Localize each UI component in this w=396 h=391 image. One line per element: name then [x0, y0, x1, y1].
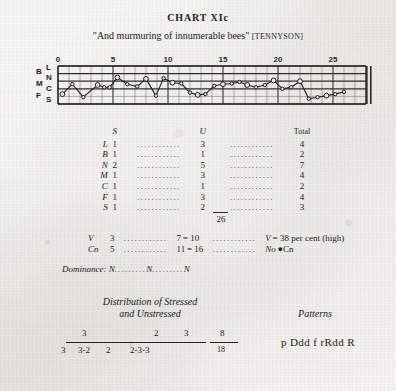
ratio-row: Cn5............11 = 16............No ●Cn: [88, 243, 344, 254]
ratio-label: V: [88, 232, 110, 243]
dot-leader: .........: [115, 265, 147, 274]
dot-leader: ............: [203, 243, 265, 254]
cell-total: 2: [294, 180, 310, 191]
cell-s: 1: [108, 170, 122, 181]
numerator-1: 3: [82, 328, 87, 338]
data-point: [108, 86, 111, 89]
cell-total: 3: [294, 202, 310, 213]
data-point: [298, 79, 303, 84]
table-row: N2............5............7: [86, 159, 310, 170]
cell-s: 1: [108, 149, 122, 160]
ratio-note: V = 38 per cent (high): [265, 232, 344, 243]
counts-table: S U Total L1............3............4B1…: [0, 126, 396, 212]
intonation-chart: 0510152025: [0, 52, 396, 118]
quote-source: [TENNYSON]: [252, 32, 303, 41]
table-row: S1............2............3: [86, 202, 310, 213]
dominance-values: N.........N.........N: [109, 264, 190, 274]
col-head-s: S: [108, 126, 122, 138]
table-body: L1............3............4B1..........…: [86, 138, 310, 212]
dot-leader: ............: [210, 180, 294, 191]
data-point: [82, 96, 85, 99]
data-point: [316, 96, 319, 99]
data-point: [307, 97, 310, 100]
table-row: F1............3............4: [86, 191, 310, 202]
dominance-line: Dominance: N.........N.........N: [62, 264, 190, 274]
dot-leader: ............: [122, 170, 196, 181]
cell-u: 3: [196, 138, 210, 149]
dot-leader: ............: [203, 232, 265, 243]
x-tick-10: 10: [164, 55, 173, 64]
table-row: C1............1............2: [86, 180, 310, 191]
ratio-table-body: V3............7 = 10............V = 38 p…: [88, 232, 344, 254]
data-point: [180, 82, 183, 85]
sum-rule: [213, 212, 228, 213]
table-row: M1............3............4: [86, 170, 310, 181]
denominator-4: 2‑3‑3: [130, 345, 150, 355]
numerator-2: 2: [154, 328, 159, 338]
denominator-3: 2: [106, 345, 111, 355]
dot-leader: ............: [115, 232, 177, 243]
data-point: [281, 87, 284, 90]
ratio-b: 11 = 16: [177, 243, 204, 254]
ratio-row: V3............7 = 10............V = 38 p…: [88, 232, 344, 243]
dot-leader: ............: [122, 138, 196, 149]
cell-s: 2: [108, 159, 122, 170]
ratio-b: 7 = 10: [177, 232, 204, 243]
data-point: [126, 83, 129, 86]
col-head-dots1: [122, 126, 196, 138]
chart-grid: [58, 66, 366, 104]
y-label-B: B: [36, 67, 42, 76]
row-label: M: [86, 170, 108, 181]
page-title: CHART XIc: [0, 12, 396, 23]
data-point: [221, 82, 226, 87]
row-label: B: [86, 149, 108, 160]
ratio-table: V3............7 = 10............V = 38 p…: [88, 232, 344, 254]
data-point: [271, 78, 276, 83]
cell-total: 7: [294, 159, 310, 170]
cell-u: 3: [196, 191, 210, 202]
dot-leader: ............: [210, 149, 294, 160]
dot-leader: ............: [122, 149, 196, 160]
cell-u: 2: [196, 202, 210, 213]
table-row: B1............1............2: [86, 149, 310, 160]
data-point: [263, 83, 266, 86]
data-point: [334, 92, 337, 95]
row-label: S: [86, 202, 108, 213]
data-point: [213, 84, 216, 87]
cell-u: 5: [196, 159, 210, 170]
data-point: [154, 94, 157, 97]
dot-leader: ............: [210, 138, 294, 149]
numerator-3: 3: [184, 328, 189, 338]
cell-u: 1: [196, 180, 210, 191]
dot-leader: ............: [122, 202, 196, 213]
data-point: [103, 86, 106, 89]
fraction-rule-main: [66, 342, 206, 343]
col-head-dots2: [210, 126, 294, 138]
chart-end-marker: [366, 66, 372, 104]
chart-page: CHART XIc "And murmuring of innumerable …: [0, 0, 396, 391]
row-label: C: [86, 180, 108, 191]
table-row: L1............3............4: [86, 138, 310, 149]
cell-total: 4: [294, 191, 310, 202]
data-point: [342, 90, 345, 93]
table-header-row: S U Total: [86, 126, 310, 138]
y-label-L: L: [46, 63, 51, 72]
dot-leader: ............: [122, 191, 196, 202]
dot-leader: .........: [152, 265, 184, 274]
x-tick-0: 0: [56, 55, 61, 64]
cell-u: 3: [196, 170, 210, 181]
data-point: [170, 80, 175, 85]
denominator-1: 3: [61, 345, 66, 355]
y-label-M: M: [36, 79, 43, 88]
data-point: [162, 77, 165, 80]
data-point: [245, 83, 250, 88]
col-head-u: U: [196, 126, 210, 138]
dot-leader: ............: [122, 180, 196, 191]
distribution-title-line1: Distribution of Stressed: [55, 296, 245, 308]
cell-s: 1: [108, 191, 122, 202]
x-tick-5: 5: [111, 55, 116, 64]
y-label-N: N: [46, 73, 52, 82]
y-label-F: F: [36, 91, 41, 100]
quote-text: "And murmuring of innumerable bees": [93, 30, 249, 41]
distribution-fraction: 3 2 3 3 3‑2 2 2‑3‑3 8 18: [58, 328, 258, 358]
